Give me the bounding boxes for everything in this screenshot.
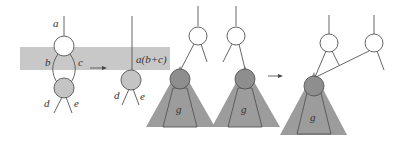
- label-merged: a(b+c): [136, 53, 167, 66]
- label-c: c: [78, 56, 83, 68]
- diagram-canvas: a b c d e a(b+c) d e g g: [0, 0, 406, 141]
- edge-e: [66, 97, 72, 113]
- shared-subtree-root: [304, 76, 324, 96]
- subtree-root-1: [170, 69, 190, 89]
- panel-4-shared-subtree: g: [280, 15, 384, 135]
- edge-e2: [133, 89, 139, 105]
- label-a: a: [53, 17, 59, 29]
- edge-d2: [122, 89, 129, 105]
- edge-parent2-left: [223, 44, 232, 62]
- edge-parent1-left: [181, 44, 194, 69]
- edge-parent1-right: [201, 44, 207, 62]
- parent-node-3: [320, 34, 338, 52]
- edge-parent3-right: [332, 51, 339, 65]
- parent-node-1: [189, 27, 207, 45]
- arrowhead-icon: [278, 74, 283, 78]
- edge-parent4-right: [377, 51, 384, 70]
- label-g: g: [310, 111, 316, 123]
- parent-node-4: [365, 34, 383, 52]
- label-g1: g: [176, 103, 182, 115]
- arrow-2: [268, 74, 283, 78]
- parent-node-2: [227, 27, 245, 45]
- label-g2: g: [241, 103, 247, 115]
- label-d: d: [44, 97, 50, 109]
- label-e: e: [74, 97, 79, 109]
- label-d2: d: [114, 89, 120, 101]
- node-top: [54, 36, 74, 56]
- label-e2: e: [140, 90, 145, 102]
- label-b: b: [45, 56, 51, 68]
- node-merged: [121, 70, 141, 90]
- edge-parent2-right: [239, 44, 245, 69]
- subtree-root-2: [235, 69, 255, 89]
- node-bottom: [54, 78, 74, 98]
- edge-d: [54, 97, 62, 113]
